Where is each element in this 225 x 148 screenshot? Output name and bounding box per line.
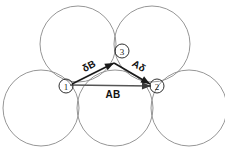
vector-label-a-delta: Aδ — [130, 58, 148, 74]
circle-packing-diagram: δB Aδ AB 1 2 3 — [0, 0, 225, 148]
top-left-circle — [40, 6, 116, 82]
marker-2-label: 2 — [155, 82, 160, 92]
marker-3: 3 — [115, 44, 129, 58]
marker-3-label: 3 — [120, 47, 125, 57]
vector-a-delta-arrowhead — [140, 76, 150, 84]
marker-1: 1 — [59, 79, 73, 93]
vector-label-ab: AB — [105, 89, 120, 100]
top-right-circle — [114, 6, 190, 82]
figure-container: δB Aδ AB 1 2 3 — [0, 0, 225, 148]
packing-circles-group — [3, 6, 225, 146]
vector-delta-b-arrowhead — [104, 63, 114, 70]
vector-ab-line — [70, 85, 151, 86]
marker-2: 2 — [150, 79, 164, 93]
marker-1-label: 1 — [64, 82, 69, 92]
